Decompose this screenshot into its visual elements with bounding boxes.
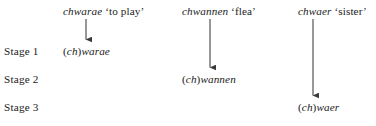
stage-label-2: Stage 2 <box>4 73 39 85</box>
source-word-1: chwarae <box>63 5 102 17</box>
column-header-2: chwannen ‘flea’ <box>182 5 256 17</box>
result-form-3: (ch)waer <box>298 101 339 113</box>
result-3-ch: ch <box>302 101 313 113</box>
result-form-1: (ch)warae <box>63 45 110 57</box>
column-header-1: chwarae ‘to play’ <box>63 5 144 17</box>
derivation-diagram: chwarae ‘to play’ chwannen ‘flea’ chwaer… <box>0 0 376 126</box>
result-2-rest: wannen <box>200 73 235 85</box>
column-header-3: chwaer ‘sister’ <box>298 5 367 17</box>
result-form-2: (ch)wannen <box>182 73 236 85</box>
source-gloss-2: ‘flea’ <box>231 5 256 17</box>
source-word-3: chwaer <box>298 5 332 17</box>
result-2-ch: ch <box>186 73 197 85</box>
source-gloss-3: ‘sister’ <box>334 5 366 17</box>
result-3-rest: waer <box>316 101 339 113</box>
source-word-2: chwannen <box>182 5 228 17</box>
stage-label-3: Stage 3 <box>4 101 39 113</box>
stage-label-1: Stage 1 <box>4 45 39 57</box>
result-1-ch: ch <box>67 45 78 57</box>
source-gloss-1: ‘to play’ <box>105 5 144 17</box>
result-1-rest: warae <box>81 45 109 57</box>
